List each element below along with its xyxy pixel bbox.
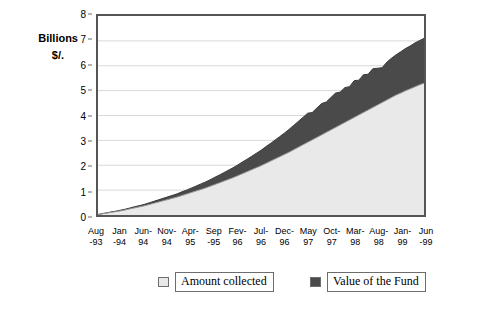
stacked-area-chart <box>98 16 424 215</box>
y-axis-tick-mark <box>88 90 92 91</box>
x-axis-tick-label: Oct-97 <box>323 226 340 248</box>
y-axis-tick-mark <box>88 39 92 40</box>
legend-label-amount-collected: Amount collected <box>175 272 274 292</box>
y-axis-tick-labels: 012345678 <box>60 14 92 217</box>
x-axis-tick-label: Nov-94 <box>157 226 176 248</box>
x-axis-tick-label: Aug-98 <box>369 226 388 248</box>
chart-figure: Billions $/. 012345678 Aug-93Jan-94Jun-9… <box>0 0 482 314</box>
legend-label-value-of-the-fund: Value of the Fund <box>327 272 426 292</box>
x-axis-tick-label: Jun-94 <box>134 226 152 248</box>
x-axis-tick-label: Jul-96 <box>254 226 269 248</box>
y-axis-tick-label: 4 <box>80 110 86 121</box>
y-axis-tick-mark <box>88 64 92 65</box>
y-axis-tick-label: 5 <box>80 85 86 96</box>
y-axis-tick-label: 1 <box>80 186 86 197</box>
legend-item-amount-collected: Amount collected <box>158 271 274 293</box>
y-axis-tick-mark <box>88 115 92 116</box>
x-axis-tick-label: Mar-98 <box>346 226 365 248</box>
y-axis-tick-label: 0 <box>80 212 86 223</box>
x-axis-tick-label: Sep-95 <box>206 226 222 248</box>
legend-swatch-value-of-the-fund <box>310 277 321 287</box>
x-axis-tick-label: Jun-99 <box>419 226 434 248</box>
y-axis-tick-mark <box>88 166 92 167</box>
plot-inner <box>98 16 424 215</box>
y-axis-tick-mark <box>88 140 92 141</box>
y-axis-tick-label: 6 <box>80 59 86 70</box>
legend-swatch-amount-collected <box>158 277 169 287</box>
x-axis-tick-label: Fev-96 <box>228 226 246 248</box>
y-axis-tick-label: 2 <box>80 161 86 172</box>
x-axis-tick-label: Jan-94 <box>112 226 127 248</box>
y-axis-tick-label: 3 <box>80 135 86 146</box>
x-axis-tick-label: Apr-95 <box>182 226 199 248</box>
x-axis-tick-label: Jan-99 <box>394 226 412 248</box>
y-axis-tick-mark <box>88 14 92 15</box>
chart-legend: Amount collected Value of the Fund <box>0 271 482 297</box>
x-axis-tick-labels: Aug-93Jan-94Jun-94Nov-94Apr-95Sep-95Fev-… <box>96 226 426 256</box>
legend-item-value-of-the-fund: Value of the Fund <box>310 271 426 293</box>
plot-area <box>96 14 426 217</box>
x-axis-tick-label: Dec-96 <box>275 226 294 248</box>
y-axis-tick-label: 8 <box>80 9 86 20</box>
x-axis-tick-label: Aug-93 <box>88 226 104 248</box>
y-axis-tick-mark <box>88 217 92 218</box>
y-axis-tick-label: 7 <box>80 34 86 45</box>
x-axis-tick-label: May97 <box>300 226 317 248</box>
y-axis-tick-mark <box>88 191 92 192</box>
